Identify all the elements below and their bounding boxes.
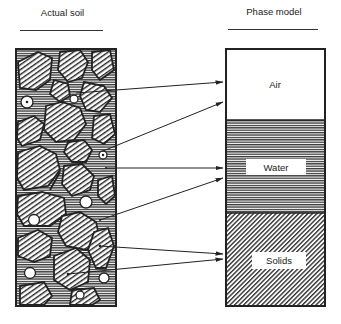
water-label: Water [264,162,289,173]
arrow-air-2 [103,102,223,151]
solids-label: Solids [266,255,292,266]
air-label: Air [269,79,281,90]
arrow-water-2 [100,178,223,220]
arrow-solids-1 [100,246,223,254]
actual-soil-block [16,49,116,306]
soil-phase-diagram: Air Water Solids [0,0,341,324]
